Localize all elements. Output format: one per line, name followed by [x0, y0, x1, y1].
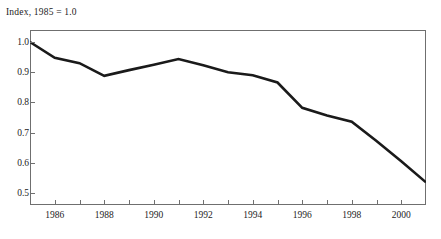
- x-tick-label: 1990: [134, 210, 174, 221]
- y-tick-label: 0.8: [3, 97, 29, 107]
- x-tick-mark: [179, 200, 180, 205]
- x-tick-mark: [253, 200, 254, 205]
- y-tick-mark: [30, 133, 35, 134]
- y-tick-label: 0.5: [3, 188, 29, 198]
- x-tick-mark: [80, 200, 81, 205]
- x-tick-mark: [302, 200, 303, 205]
- x-tick-mark: [55, 200, 56, 205]
- x-tick-mark: [401, 200, 402, 205]
- x-tick-mark: [154, 200, 155, 205]
- x-tick-label: 1994: [233, 210, 273, 221]
- x-tick-mark: [278, 200, 279, 205]
- y-tick-mark: [30, 102, 35, 103]
- x-tick-label: 2000: [381, 210, 421, 221]
- y-axis: 1.00.90.80.70.60.5: [0, 0, 29, 239]
- x-tick-mark: [327, 200, 328, 205]
- chart-screenshot: Index, 1985 = 1.0 1.00.90.80.70.60.5 198…: [0, 0, 441, 239]
- x-tick-label: 1986: [35, 210, 75, 221]
- y-tick-mark: [30, 163, 35, 164]
- x-tick-mark: [377, 200, 378, 205]
- x-tick-mark: [129, 200, 130, 205]
- x-tick-mark: [228, 200, 229, 205]
- x-tick-mark: [104, 200, 105, 205]
- x-tick-label: 1992: [183, 210, 223, 221]
- data-series-line: [30, 42, 426, 182]
- x-tick-label: 1998: [332, 210, 372, 221]
- y-tick-label: 0.9: [3, 67, 29, 77]
- x-tick-label: 1996: [282, 210, 322, 221]
- x-tick-mark: [352, 200, 353, 205]
- y-tick-label: 0.6: [3, 158, 29, 168]
- y-tick-mark: [30, 72, 35, 73]
- plot-area: [30, 30, 426, 205]
- y-tick-label: 1.0: [3, 37, 29, 47]
- x-tick-mark: [203, 200, 204, 205]
- y-tick-mark: [30, 193, 35, 194]
- y-tick-label: 0.7: [3, 128, 29, 138]
- x-tick-label: 1988: [84, 210, 124, 221]
- y-tick-mark: [30, 42, 35, 43]
